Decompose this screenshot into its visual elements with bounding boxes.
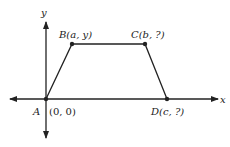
trapezoid-outline (46, 44, 167, 99)
y-axis-label: y (40, 7, 47, 18)
point-a-coords: (0, 0) (49, 106, 76, 117)
point-b-label: B(a, y) (58, 29, 92, 40)
coordinate-diagram: y x A (0, 0) B(a, y) C(b, ?) D(c, ?) (0, 0, 230, 147)
x-axis-label: x (220, 94, 226, 105)
point-d-label: D(c, ?) (150, 106, 184, 117)
point-c-label: C(b, ?) (131, 29, 165, 40)
point-b (70, 42, 74, 46)
point-a-name: A (32, 106, 40, 117)
point-d (165, 97, 169, 101)
point-a (44, 97, 48, 101)
point-c (143, 42, 147, 46)
